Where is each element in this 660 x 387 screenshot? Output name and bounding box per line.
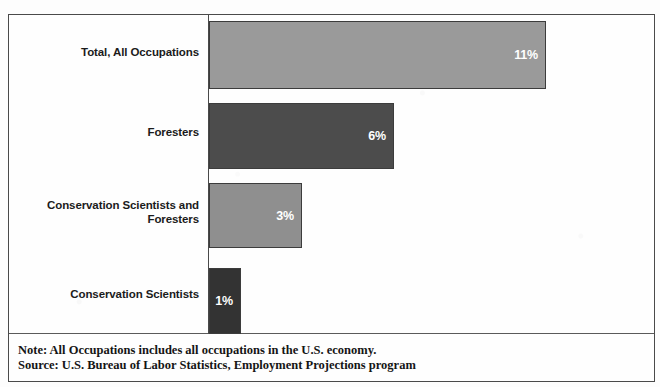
category-label: Conservation Scientists and Foresters — [9, 198, 199, 226]
bar-row: Conservation Scientists 1% — [9, 262, 654, 334]
bar-foresters[interactable]: 6% — [209, 103, 394, 169]
bar-row: Foresters 6% — [9, 95, 654, 183]
bar-value-label: 11% — [514, 48, 545, 62]
footnote-block: Note: All Occupations includes all occup… — [9, 334, 654, 381]
footnote-note: Note: All Occupations includes all occup… — [18, 343, 654, 358]
plot-area: Total, All Occupations 11% Foresters 6% … — [9, 15, 654, 334]
bar-conservation-scientists-and-foresters[interactable]: 3% — [209, 183, 302, 248]
category-label: Total, All Occupations — [9, 45, 199, 59]
category-label-line: Conservation Scientists — [70, 288, 199, 300]
footnote-source: Source: U.S. Bureau of Labor Statistics,… — [18, 358, 654, 373]
bar-total-all-occupations[interactable]: 11% — [209, 21, 546, 89]
scanned-page: Total, All Occupations 11% Foresters 6% … — [0, 0, 660, 387]
bar-value-label: 1% — [215, 294, 240, 308]
chart-frame: Total, All Occupations 11% Foresters 6% … — [8, 14, 655, 382]
bar-conservation-scientists[interactable]: 1% — [209, 268, 241, 334]
category-label: Foresters — [9, 125, 199, 139]
category-label-line: Foresters — [147, 126, 199, 138]
bar-row: Conservation Scientists and Foresters 3% — [9, 177, 654, 263]
bar-row: Total, All Occupations 11% — [9, 15, 654, 103]
bar-value-label: 6% — [368, 129, 393, 143]
category-label-line: Total, All Occupations — [81, 46, 199, 58]
category-label: Conservation Scientists — [9, 287, 199, 301]
bar-value-label: 3% — [276, 209, 301, 223]
category-label-line: Conservation Scientists and — [47, 199, 199, 211]
category-label-line: Foresters — [147, 213, 199, 225]
